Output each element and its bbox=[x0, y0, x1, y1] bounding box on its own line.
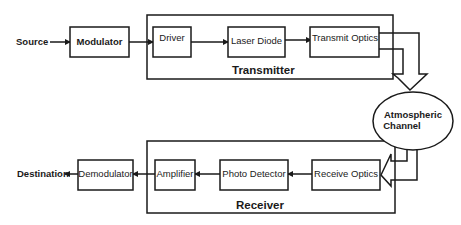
driver-label: Driver bbox=[159, 32, 184, 43]
destination-label: Destination bbox=[17, 168, 69, 179]
transmitter-label: Transmitter bbox=[232, 64, 295, 76]
channel-label-line2: Channel bbox=[383, 120, 420, 131]
transmit-optics-label: Transmit Optics bbox=[312, 32, 378, 43]
hollow-arrow-to-channel bbox=[379, 33, 427, 90]
channel-label-line1: Atmospheric bbox=[384, 109, 442, 120]
receive-optics-label: Receive Optics bbox=[314, 168, 378, 179]
receiver-label: Receiver bbox=[236, 199, 284, 211]
hollow-arrow-to-receiver bbox=[381, 150, 417, 186]
amplifier-label: Amplifier bbox=[157, 168, 194, 179]
laser-diode-label: Laser Diode bbox=[231, 35, 282, 46]
source-label: Source bbox=[16, 36, 48, 47]
photo-detector-label: Photo Detector bbox=[222, 168, 285, 179]
modulator-label: Modulator bbox=[77, 36, 123, 47]
diagram-canvas: Source Modulator Driver Laser Diode Tran… bbox=[0, 0, 461, 225]
demodulator-label: Demodulator bbox=[78, 168, 132, 179]
